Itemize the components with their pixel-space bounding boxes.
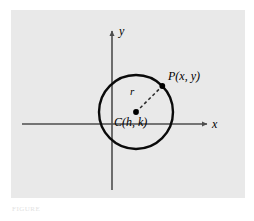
radius-segment: [136, 86, 162, 112]
x-axis-label: x: [212, 118, 217, 130]
radius-label: r: [130, 86, 134, 97]
circle-diagram-svg: [0, 0, 254, 221]
figure-root: y x P(x, y) C(h, k) r FIGURE: [0, 0, 254, 221]
figure-caption: FIGURE: [12, 205, 40, 213]
y-axis-label: y: [119, 25, 124, 37]
point-p-label: P(x, y): [168, 70, 200, 82]
center-c-label: C(h, k): [114, 116, 147, 128]
point-p-dot: [159, 83, 165, 89]
